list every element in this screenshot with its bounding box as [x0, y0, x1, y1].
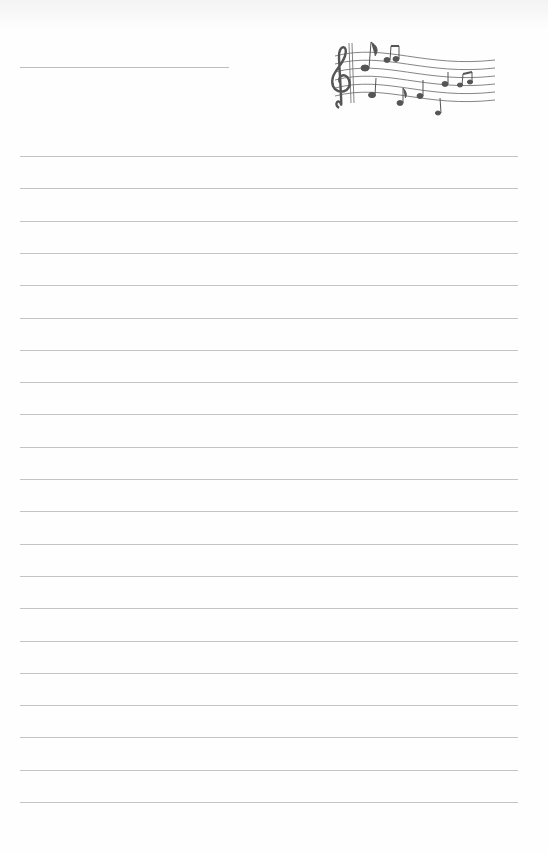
lined-paper-page — [0, 0, 548, 853]
ruled-line — [20, 253, 518, 254]
ruled-line — [20, 382, 518, 383]
name-line — [20, 67, 229, 68]
ruled-line — [20, 188, 518, 189]
ruled-line — [20, 802, 518, 803]
ruled-line — [20, 414, 518, 415]
ruled-line — [20, 350, 518, 351]
ruled-line — [20, 156, 518, 157]
ruled-line — [20, 673, 518, 674]
ruled-line — [20, 511, 518, 512]
scan-shadow — [0, 0, 548, 30]
ruled-line — [20, 544, 518, 545]
ruled-line — [20, 770, 518, 771]
ruled-line — [20, 705, 518, 706]
staff-lines — [335, 52, 495, 101]
ruled-line — [20, 479, 518, 480]
ruled-line — [20, 318, 518, 319]
music-staff-icon — [325, 38, 500, 120]
treble-clef — [332, 47, 349, 108]
ruled-line — [20, 737, 518, 738]
ruled-line — [20, 447, 518, 448]
ruled-line — [20, 608, 518, 609]
ruled-line — [20, 641, 518, 642]
ruled-line — [20, 285, 518, 286]
ruled-line — [20, 221, 518, 222]
ruled-line — [20, 576, 518, 577]
